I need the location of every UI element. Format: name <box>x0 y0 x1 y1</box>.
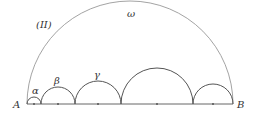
center-dot <box>57 103 59 105</box>
omega-label: ω <box>127 8 135 19</box>
center-dot <box>33 103 35 105</box>
beta-label: β <box>53 75 60 86</box>
center-dot <box>156 103 158 105</box>
arc-gamma <box>75 81 121 104</box>
point-a-label: A <box>12 99 20 110</box>
center-dot <box>212 103 214 105</box>
point-b-label: B <box>236 99 244 110</box>
alpha-label: α <box>32 85 39 96</box>
arc-beta <box>41 87 75 104</box>
arc-alpha <box>27 97 41 104</box>
center-dot <box>97 103 99 105</box>
gamma-label: γ <box>94 69 100 80</box>
figure-label: (II) <box>36 19 52 30</box>
semicircle-diagram: (II) ω α β γ A B <box>0 0 255 121</box>
arc-fifth <box>193 84 233 104</box>
arc-fourth <box>121 68 193 104</box>
